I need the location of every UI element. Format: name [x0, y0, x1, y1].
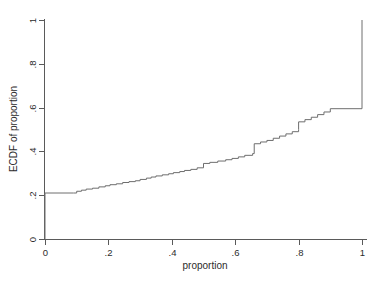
x-axis-title: proportion: [182, 260, 227, 271]
y-axis-title: ECDF of proportion: [8, 86, 19, 172]
x-tick-label: 1: [360, 247, 365, 258]
x-tick-label: 0: [43, 247, 48, 258]
y-tick-label: .8: [27, 61, 38, 69]
y-tick-label: .2: [27, 192, 38, 200]
x-tick-label: .8: [296, 247, 304, 258]
y-tick-label: .6: [27, 105, 38, 113]
ecdf-chart-figure: 0.2.4.6.81 0.2.4.6.81 proportion ECDF of…: [0, 0, 378, 286]
y-tick-label: 1: [27, 18, 38, 23]
x-tick-label: .4: [169, 247, 177, 258]
ecdf-chart-svg: 0.2.4.6.81 0.2.4.6.81 proportion ECDF of…: [0, 0, 378, 286]
chart-background: [0, 0, 378, 286]
y-tick-label: .4: [27, 148, 38, 156]
y-tick-label: 0: [27, 237, 38, 242]
x-tick-label: .6: [232, 247, 240, 258]
x-tick-label: .2: [105, 247, 113, 258]
